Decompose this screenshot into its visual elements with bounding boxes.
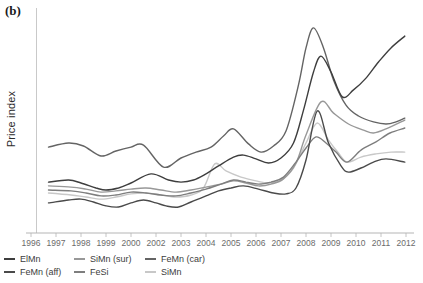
x-tick-label-2000: 2000 — [122, 238, 141, 248]
x-tick-label-2006: 2006 — [247, 238, 266, 248]
legend-label: FeMn (aff) — [20, 267, 61, 277]
legend-dash-icon — [4, 258, 15, 260]
x-tick-label-1999: 1999 — [97, 238, 116, 248]
series-line-elmn — [49, 36, 405, 190]
legend-label: ElMn — [20, 254, 41, 264]
legend-label: FeMn (car) — [161, 254, 205, 264]
price-index-chart: 1996199719981999200020022003200420052006… — [0, 0, 423, 252]
x-tick-label-2009: 2009 — [322, 238, 341, 248]
series-line-femn-car — [49, 28, 405, 168]
x-tick-label-2003: 2003 — [172, 238, 191, 248]
x-tick-label-2002: 2002 — [147, 238, 166, 248]
x-tick-label-2010: 2010 — [347, 238, 366, 248]
x-tick-label-2004: 2004 — [197, 238, 216, 248]
legend-label: SiMn — [161, 267, 182, 277]
x-tick-label-1996: 1996 — [22, 238, 41, 248]
legend-dash-icon — [145, 271, 156, 273]
figure-panel-b: (b) Price index 199619971998199920002002… — [0, 0, 423, 283]
x-tick-label-2008: 2008 — [297, 238, 316, 248]
legend-item-femn-car: FeMn (car) — [145, 254, 421, 264]
legend-item-femn-aff: FeMn (aff) — [4, 267, 74, 277]
legend-dash-icon — [74, 258, 85, 260]
x-tick-label-2007: 2007 — [272, 238, 291, 248]
legend-dash-icon — [74, 271, 85, 273]
legend-dash-icon — [145, 258, 156, 260]
x-tick-label-2012: 2012 — [397, 238, 416, 248]
x-tick-label-1998: 1998 — [72, 238, 91, 248]
legend-label: FeSi — [90, 267, 109, 277]
legend-item-simn: SiMn — [145, 267, 421, 277]
x-tick-label-2011: 2011 — [372, 238, 391, 248]
legend-item-elmn: ElMn — [4, 254, 74, 264]
chart-legend: ElMnSiMn (sur)FeMn (car)FeMn (aff)FeSiSi… — [4, 252, 421, 278]
series-line-simn-sur — [49, 101, 405, 192]
x-tick-label-2005: 2005 — [222, 238, 241, 248]
legend-label: SiMn (sur) — [90, 254, 132, 264]
x-tick-label-1997: 1997 — [47, 238, 66, 248]
legend-dash-icon — [4, 271, 15, 273]
legend-item-simn-sur: SiMn (sur) — [74, 254, 145, 264]
legend-item-fesi: FeSi — [74, 267, 145, 277]
